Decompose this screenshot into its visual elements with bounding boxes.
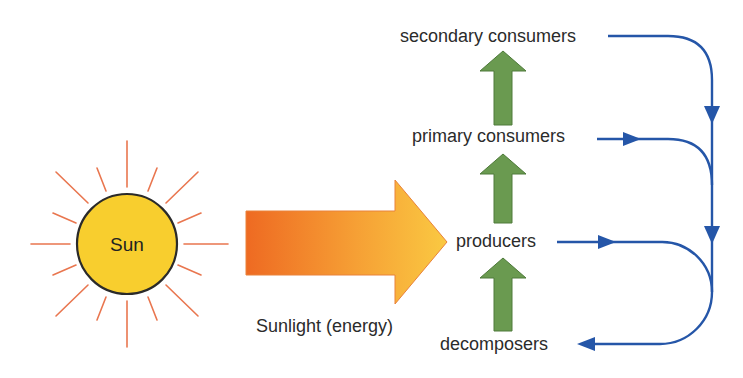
upward-arrows	[480, 51, 526, 331]
arrow-up-icon	[480, 154, 526, 223]
flow-line-producers	[557, 242, 712, 344]
sunlight-label: Sunlight (energy)	[256, 316, 393, 336]
arrow-right-icon	[598, 235, 616, 249]
arrow-down-icon	[704, 226, 720, 244]
recycle-flow	[557, 36, 712, 344]
arrow-up-icon	[480, 258, 526, 331]
sunlight-arrow: Sunlight (energy)	[246, 180, 447, 336]
arrow-down-icon	[704, 106, 720, 124]
arrow-up-icon	[480, 51, 526, 125]
level-label-secondary-consumers: secondary consumers	[400, 26, 576, 46]
flow-line-primary	[597, 139, 712, 185]
level-label-producers: producers	[456, 231, 536, 251]
arrow-right-icon	[623, 132, 641, 146]
sun-label: Sun	[110, 234, 144, 255]
energy-flow-diagram: Sun Sunlight (energy) secondary consumer…	[0, 0, 743, 378]
flow-line-secondary	[608, 36, 712, 292]
sun: Sun	[31, 141, 228, 347]
flow-arrowheads	[577, 106, 720, 351]
level-label-decomposers: decomposers	[440, 334, 548, 354]
level-label-primary-consumers: primary consumers	[412, 126, 565, 146]
arrow-left-icon	[577, 337, 595, 351]
